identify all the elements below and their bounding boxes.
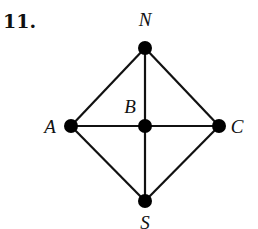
node-label-S: S: [140, 212, 150, 229]
edge-N-C: [145, 48, 219, 126]
node-N: [138, 41, 152, 55]
node-A: [64, 119, 78, 133]
node-label-A: A: [42, 116, 56, 137]
graph-diagram: NABCS: [0, 0, 258, 229]
node-C: [212, 119, 226, 133]
edge-A-S: [71, 126, 145, 201]
edge-C-S: [145, 126, 219, 201]
node-B: [138, 119, 152, 133]
node-label-C: C: [231, 116, 244, 137]
node-label-N: N: [138, 9, 153, 30]
node-S: [138, 194, 152, 208]
node-label-B: B: [124, 96, 136, 117]
